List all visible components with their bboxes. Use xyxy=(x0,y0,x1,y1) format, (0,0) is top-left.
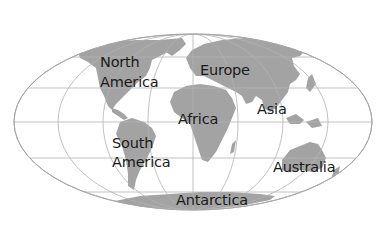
label-africa: Africa xyxy=(178,111,218,127)
label-antarctica: Antarctica xyxy=(176,192,248,208)
world-map: North America Europe Asia Africa South A… xyxy=(0,0,388,230)
label-north-america-1: North xyxy=(100,54,140,70)
label-asia: Asia xyxy=(257,101,287,117)
label-south-america-2: America xyxy=(112,154,170,170)
label-australia: Australia xyxy=(273,159,335,175)
label-north-america-2: America xyxy=(100,74,158,90)
label-europe: Europe xyxy=(200,62,250,78)
label-south-america-1: South xyxy=(112,135,153,151)
